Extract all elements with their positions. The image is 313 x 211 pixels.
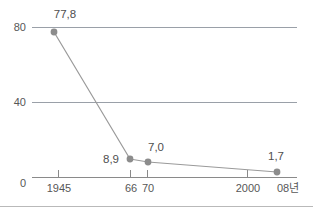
x-axis-tick-label-08nyeon: 08년	[267, 182, 309, 194]
y-axis-tick-label-0: 0	[2, 177, 26, 189]
data-label-1945: 77,8	[44, 8, 86, 20]
bottom-divider	[0, 206, 313, 207]
data-point-marker	[145, 159, 152, 166]
x-axis-tick-label-1945: 1945	[36, 182, 82, 194]
data-label-66: 8,9	[94, 153, 128, 165]
data-point-marker	[51, 29, 58, 36]
data-point-marker	[274, 169, 281, 176]
data-label-08nyeon: 1,7	[259, 150, 293, 162]
x-axis-tick-label-70: 70	[134, 182, 162, 194]
y-axis-tick-label-40: 40	[2, 96, 26, 108]
line-chart: 80 40 0 1945 66 70 2000 08년 77,8 8,9 7,0…	[0, 0, 313, 211]
chart-plot-area	[0, 0, 313, 211]
data-label-70: 7,0	[139, 141, 173, 153]
x-axis-tick-label-2000: 2000	[225, 182, 271, 194]
y-axis-tick-label-80: 80	[2, 21, 26, 33]
